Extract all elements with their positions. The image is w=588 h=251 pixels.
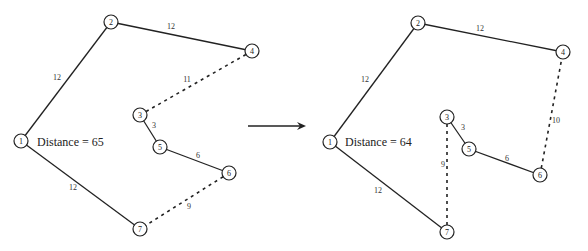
node-label: 4: [250, 47, 254, 56]
edge-weight-label: 12: [374, 186, 382, 195]
edge-weight-label: 12: [69, 183, 77, 192]
node-label: 1: [19, 137, 23, 146]
node-label: 6: [227, 169, 231, 178]
edge-weight-label: 10: [552, 116, 560, 125]
edge-weight-label: 6: [505, 154, 509, 163]
edge: [111, 22, 252, 51]
edge: [21, 22, 111, 141]
dashed-edge: [540, 52, 563, 175]
node-label: 7: [445, 228, 449, 237]
edge: [21, 141, 140, 229]
node-label: 2: [416, 19, 420, 28]
node-label: 3: [445, 113, 449, 122]
edge-weight-label: 12: [476, 24, 484, 33]
edge: [160, 147, 229, 173]
node-label: 1: [328, 138, 332, 147]
node-label: 2: [109, 18, 113, 27]
tour-diagram-after: 121236109121243567Distance = 64: [323, 16, 570, 239]
distance-label: Distance = 64: [345, 135, 412, 149]
dashed-edge: [140, 173, 229, 229]
tour-diagram-before: 121211369121243567Distance = 65: [14, 15, 259, 236]
distance-label: Distance = 65: [37, 135, 104, 149]
edge: [418, 23, 563, 52]
node-label: 6: [538, 171, 542, 180]
dashed-edge: [140, 51, 252, 115]
node-label: 5: [158, 143, 162, 152]
edge-weight-label: 3: [152, 121, 156, 130]
edge: [330, 23, 418, 142]
node-label: 4: [561, 48, 565, 57]
node-label: 3: [138, 111, 142, 120]
edge-weight-label: 9: [187, 202, 191, 211]
edge-weight-label: 11: [183, 75, 191, 84]
edge-weight-label: 6: [196, 151, 200, 160]
edge-weight-label: 3: [461, 123, 465, 132]
edge-weight-label: 12: [167, 22, 175, 31]
tour-comparison-diagram: 121211369121243567Distance = 65121236109…: [0, 0, 588, 251]
edge-weight-label: 12: [53, 73, 61, 82]
node-label: 7: [138, 225, 142, 234]
edge: [330, 142, 447, 232]
node-label: 5: [467, 145, 471, 154]
edge-weight-label: 12: [361, 75, 369, 84]
edge-weight-label: 9: [441, 160, 445, 169]
